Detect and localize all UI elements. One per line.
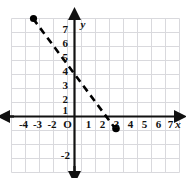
- x-tick-label: 6: [156, 118, 162, 130]
- coordinate-plane-figure: -4 -3 -2 1 2 3 4 5 6 7 7 6 5 4 3 2 1 -2 …: [0, 0, 186, 178]
- y-tick-label: 1: [63, 104, 69, 116]
- x-tick-label: 2: [100, 118, 106, 130]
- x-tick-label: 3: [114, 118, 120, 130]
- y-tick-label: 4: [63, 65, 69, 77]
- x-tick-label: 1: [86, 118, 92, 130]
- x-tick-label: 4: [128, 118, 134, 130]
- y-tick-label: 7: [63, 23, 69, 35]
- x-axis-label: x: [174, 118, 181, 130]
- x-tick-label: -4: [19, 118, 29, 130]
- graph-canvas: -4 -3 -2 1 2 3 4 5 6 7 7 6 5 4 3 2 1 -2 …: [0, 0, 186, 178]
- y-axis-label: y: [79, 18, 86, 30]
- x-tick-label: 5: [142, 118, 148, 130]
- y-tick-label: 5: [63, 51, 69, 63]
- data-point-marker: [30, 15, 37, 22]
- y-tick-label: 3: [63, 79, 69, 91]
- y-tick-label: -2: [61, 149, 71, 161]
- x-tick-label: 7: [168, 118, 174, 130]
- x-tick-label: -2: [47, 118, 57, 130]
- y-tick-label: 6: [63, 37, 69, 49]
- x-tick-label: -3: [33, 118, 43, 130]
- origin-label: O: [63, 118, 72, 130]
